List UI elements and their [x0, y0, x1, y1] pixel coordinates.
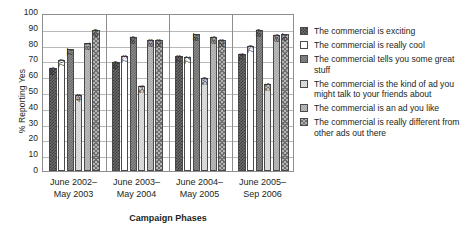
bar — [210, 37, 217, 171]
bar-value-label: 89 — [255, 29, 262, 37]
bar-value-label: 89 — [92, 29, 99, 37]
legend-item[interactable]: The commercial is an ad you like — [300, 103, 472, 114]
bar — [84, 43, 91, 171]
bar-value-label: 59 — [201, 77, 208, 85]
legend-item-label: The commercial is exciting — [314, 26, 415, 37]
bar-value-label: 85 — [129, 35, 136, 43]
bar — [112, 62, 119, 171]
x-tick-label: June 2005–Sep 2006 — [231, 176, 294, 200]
bar-group: 697385548383 — [106, 15, 169, 171]
bar — [264, 84, 271, 171]
legend-swatch-icon — [300, 80, 308, 88]
bar-value-label: 87 — [281, 32, 288, 40]
bar-value-label: 81 — [84, 42, 91, 50]
legend-item-label: The commercial tells you some great stuf… — [314, 54, 472, 75]
y-tick-label: 70 — [29, 55, 38, 63]
x-tick-label-line: June 2003– — [105, 176, 168, 188]
x-axis-title: Campaign Phases — [42, 213, 294, 223]
bar — [49, 68, 56, 171]
bar-value-label: 70 — [58, 59, 65, 67]
bar-value-label: 83 — [155, 39, 162, 47]
x-tick-label-line: May 2003 — [42, 188, 105, 200]
bar — [130, 37, 137, 171]
bar — [201, 78, 208, 171]
bar-value-label: 65 — [49, 67, 56, 75]
bar — [256, 30, 263, 171]
legend-swatch-icon — [300, 104, 308, 112]
bar — [281, 34, 288, 171]
plot-area: 6570774881896973855483837372875985837479… — [42, 14, 294, 172]
bar — [155, 40, 162, 171]
bar — [184, 57, 191, 171]
y-axis-tick-labels: 1009080706050403020100 — [14, 12, 38, 172]
bar-group: 747989558687 — [232, 15, 295, 171]
y-tick-label: 100 — [24, 8, 38, 16]
bar — [67, 49, 74, 171]
bar — [147, 40, 154, 171]
legend-swatch-icon — [300, 41, 308, 49]
legend: The commercial is excitingThe commercial… — [300, 26, 472, 142]
bar — [58, 60, 65, 171]
y-tick-label: 60 — [29, 71, 38, 79]
x-tick-label-line: June 2002– — [42, 176, 105, 188]
x-tick-label: June 2003–May 2004 — [105, 176, 168, 200]
bar — [193, 34, 200, 171]
y-tick-label: 50 — [29, 87, 38, 95]
bar-value-label: 72 — [184, 56, 191, 64]
bar-value-label: 73 — [121, 54, 128, 62]
chart-figure: % Reporting Yes 1009080706050403020100 6… — [0, 0, 472, 235]
legend-item-label: The commercial is really cool — [314, 40, 425, 51]
bar — [121, 56, 128, 171]
bar-value-label: 48 — [75, 94, 82, 102]
legend-item[interactable]: The commercial is the kind of ad you mig… — [300, 79, 472, 100]
bar-group: 657077488189 — [43, 15, 106, 171]
y-tick-label: 20 — [29, 134, 38, 142]
y-tick-label: 0 — [33, 166, 38, 174]
bar-value-label: 69 — [112, 61, 119, 69]
bar-value-label: 79 — [247, 45, 254, 53]
legend-item-label: The commercial is an ad you like — [314, 103, 439, 114]
legend-item[interactable]: The commercial is really cool — [300, 40, 472, 51]
bar — [218, 40, 225, 171]
bar-value-label: 87 — [192, 32, 199, 40]
bar-value-label: 83 — [218, 39, 225, 47]
y-tick-label: 80 — [29, 40, 38, 48]
bar-value-label: 86 — [273, 34, 280, 42]
legend-swatch-icon — [300, 55, 308, 63]
y-tick-label: 30 — [29, 119, 38, 127]
x-axis-tick-labels: June 2002–May 2003June 2003–May 2004June… — [42, 176, 294, 210]
y-tick-label: 40 — [29, 103, 38, 111]
y-tick-label: 10 — [29, 150, 38, 158]
bar-value-label: 77 — [66, 48, 73, 56]
bar — [247, 46, 254, 171]
y-tick-label: 90 — [29, 24, 38, 32]
bar — [75, 95, 82, 171]
bar — [273, 35, 280, 171]
bar-value-label: 73 — [175, 54, 182, 62]
bar — [175, 56, 182, 171]
x-tick-label-line: Sep 2006 — [231, 188, 294, 200]
x-tick-label: June 2004–May 2005 — [168, 176, 231, 200]
bar — [92, 30, 99, 171]
legend-swatch-icon — [300, 27, 308, 35]
legend-item[interactable]: The commercial is exciting — [300, 26, 472, 37]
bar-value-label: 55 — [264, 83, 271, 91]
x-tick-label-line: June 2004– — [168, 176, 231, 188]
x-tick-label-line: May 2004 — [105, 188, 168, 200]
bar — [238, 54, 245, 171]
bar-group: 737287598583 — [169, 15, 232, 171]
bar-value-label: 54 — [138, 84, 145, 92]
legend-item-label: The commercial is the kind of ad you mig… — [314, 79, 472, 100]
legend-item-label: The commercial is really different from … — [314, 117, 472, 138]
bar-value-label: 74 — [238, 53, 245, 61]
legend-item[interactable]: The commercial tells you some great stuf… — [300, 54, 472, 75]
legend-swatch-icon — [300, 118, 308, 126]
bar-value-label: 83 — [147, 39, 154, 47]
x-tick-label-line: June 2005– — [231, 176, 294, 188]
x-tick-label: June 2002–May 2003 — [42, 176, 105, 200]
bar — [138, 86, 145, 171]
legend-item[interactable]: The commercial is really different from … — [300, 117, 472, 138]
bar-value-label: 85 — [210, 35, 217, 43]
x-tick-label-line: May 2005 — [168, 188, 231, 200]
